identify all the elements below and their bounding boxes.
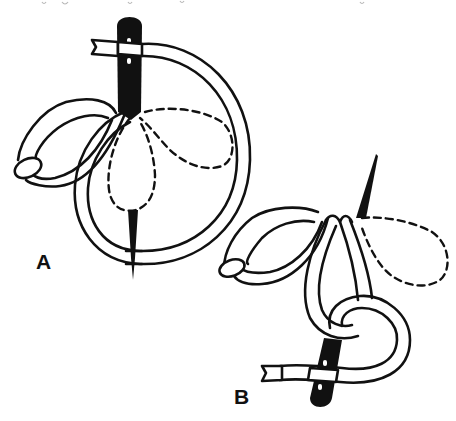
panel-b: [217, 154, 448, 407]
panel-label-a: A: [36, 251, 51, 272]
needle-point-icon: [356, 154, 378, 218]
panel-label-b: B: [234, 386, 249, 407]
tack-stitch-icon: [217, 256, 247, 280]
thread-loop-icon: [75, 44, 250, 264]
needle-icon: [308, 338, 342, 407]
needle-icon: [117, 17, 142, 120]
petal-icon: [305, 216, 372, 339]
stitch-diagram: A B: [0, 0, 456, 421]
cutoff-text-line: [42, 1, 364, 4]
dashed-petal-outline-icon: [362, 218, 448, 286]
needle-point-icon: [128, 210, 138, 280]
diagram-canvas: [0, 0, 456, 421]
panel-a: [12, 17, 251, 280]
thread-tail: [92, 40, 118, 56]
